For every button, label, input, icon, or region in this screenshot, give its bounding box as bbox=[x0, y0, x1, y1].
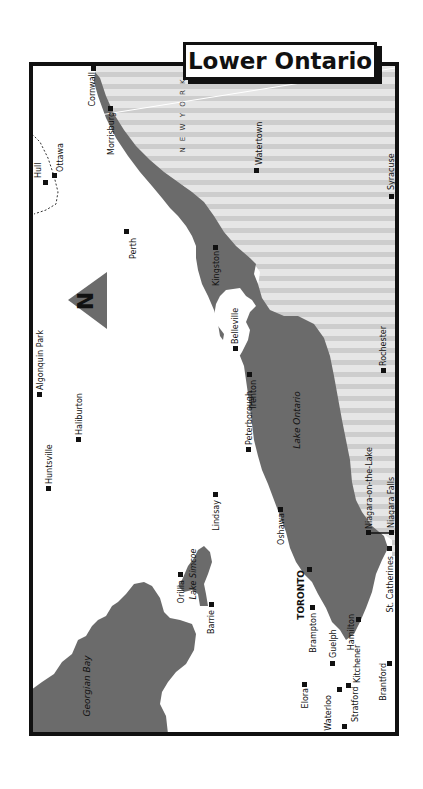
city-stratford: Stratford bbox=[351, 687, 360, 722]
map-title: Lower Ontario bbox=[188, 48, 372, 74]
city-barrie: Barrie bbox=[207, 610, 216, 634]
lake-ontario-label: Lake Ontario bbox=[292, 391, 302, 449]
city-oshawa: Oshawa bbox=[277, 513, 286, 545]
city-kingston: Kingston bbox=[212, 251, 221, 286]
city-belleville: Belleville bbox=[231, 308, 240, 344]
city-watertown: Watertown bbox=[255, 122, 264, 165]
map: N Lake Ontario Lake Simcoe Georgian Bay … bbox=[0, 0, 423, 789]
city-waterloo: Waterloo bbox=[324, 695, 333, 731]
map-title-box: Lower Ontario bbox=[183, 42, 377, 80]
city-toronto: TORONTO bbox=[296, 570, 306, 620]
city-niagara-on-the-lake: Niagara-on-the-Lake bbox=[365, 447, 374, 529]
city-huntsville: Huntsville bbox=[45, 444, 54, 484]
city-cornwall: Cornwall bbox=[88, 72, 97, 107]
city-peterborough: Peterborough bbox=[245, 391, 254, 445]
city-brantford: Brantford bbox=[379, 663, 388, 701]
city-niagara-falls: Niagara Falls bbox=[387, 477, 396, 528]
new-york-label: N E W Y O R K bbox=[179, 77, 187, 152]
city-brampton: Brampton bbox=[309, 613, 318, 653]
city-syracuse: Syracuse bbox=[387, 153, 396, 190]
city-rochester: Rochester bbox=[379, 325, 388, 366]
city-lindsay: Lindsay bbox=[212, 500, 221, 531]
lake-simcoe-label: Lake Simcoe bbox=[189, 549, 198, 600]
svg-text:N: N bbox=[73, 292, 98, 310]
city-haliburton: Haliburton bbox=[75, 393, 84, 435]
city-kitchener: Kitchener bbox=[353, 644, 362, 683]
city-hull: Hull bbox=[34, 162, 43, 178]
city-st-catherines: St. Catherines bbox=[386, 556, 395, 613]
city-elora: Elora bbox=[301, 688, 310, 708]
city-guelph: Guelph bbox=[329, 629, 338, 658]
city-algonquin-park: Algonquin Park bbox=[36, 330, 45, 390]
city-perth: Perth bbox=[129, 238, 138, 259]
city-morrisburg: Morrisburg bbox=[107, 112, 116, 155]
georgian-bay-label: Georgian Bay bbox=[82, 655, 92, 717]
city-orillia: Orillia bbox=[177, 580, 186, 603]
city-ottawa: Ottawa bbox=[56, 143, 65, 172]
